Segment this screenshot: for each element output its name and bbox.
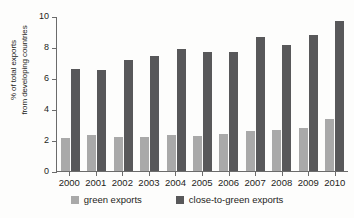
x-axis-label-2001: 2001 <box>83 177 110 189</box>
bar-green-exports-2007 <box>246 131 255 171</box>
bars-layer <box>57 17 348 171</box>
bar-group <box>322 17 348 171</box>
y-axis-title: % of total exports from developing count… <box>9 0 39 150</box>
legend-swatch-icon <box>176 196 184 204</box>
bar-close-to-green-exports-2000 <box>71 69 80 171</box>
x-axis-tick-mark <box>335 172 336 176</box>
x-axis-label-2003: 2003 <box>136 177 163 189</box>
bar-group <box>83 17 109 171</box>
x-axis-tick-mark <box>282 172 283 176</box>
bar-group <box>242 17 268 171</box>
x-axis-tick-mark <box>229 172 230 176</box>
bar-chart: % of total exports from developing count… <box>0 0 354 218</box>
y-axis-tick-label: 6 <box>44 73 49 84</box>
bar-group <box>269 17 295 171</box>
legend-label: close-to-green exports <box>189 194 284 205</box>
bar-close-to-green-exports-2005 <box>203 52 212 171</box>
legend-item-close-to-green-exports[interactable]: close-to-green exports <box>176 194 284 205</box>
bar-green-exports-2006 <box>219 134 228 171</box>
bar-group <box>163 17 189 171</box>
y-axis-tick-label: 10 <box>39 11 49 22</box>
bar-close-to-green-exports-2001 <box>97 70 106 171</box>
x-axis-tick-mark <box>255 172 256 176</box>
y-axis-tick-label: 4 <box>44 104 49 115</box>
x-axis-tick-mark <box>202 172 203 176</box>
bar-green-exports-2003 <box>140 137 149 171</box>
bar-close-to-green-exports-2008 <box>282 45 291 171</box>
bar-group <box>189 17 215 171</box>
x-axis-tick-mark <box>308 172 309 176</box>
bar-close-to-green-exports-2007 <box>256 37 265 171</box>
y-axis-tick-label: 0 <box>44 166 49 177</box>
bar-close-to-green-exports-2006 <box>229 52 238 171</box>
x-axis-tick-mark <box>96 172 97 176</box>
y-axis-tick-label: 2 <box>44 135 49 146</box>
bar-group <box>295 17 321 171</box>
legend-label: green exports <box>84 194 142 205</box>
x-axis-label-2000: 2000 <box>56 177 83 189</box>
x-axis-label-2009: 2009 <box>295 177 322 189</box>
bar-green-exports-2008 <box>272 130 281 171</box>
plot-area: 0246810 <box>56 17 348 172</box>
bar-group <box>216 17 242 171</box>
bar-group <box>57 17 83 171</box>
x-axis-tick-mark <box>122 172 123 176</box>
bar-close-to-green-exports-2003 <box>150 56 159 171</box>
bar-close-to-green-exports-2004 <box>177 49 186 171</box>
x-axis-label-2004: 2004 <box>162 177 189 189</box>
x-axis-tick-mark <box>69 172 70 176</box>
y-axis-tick-label: 8 <box>44 42 49 53</box>
x-axis-label-2006: 2006 <box>215 177 242 189</box>
bar-group <box>110 17 136 171</box>
x-axis-labels: 2000200120022003200420052006200720082009… <box>56 177 348 189</box>
bar-green-exports-2010 <box>325 119 334 171</box>
bar-green-exports-2001 <box>87 135 96 171</box>
x-axis-tick-mark <box>175 172 176 176</box>
bar-green-exports-2004 <box>167 135 176 171</box>
bar-close-to-green-exports-2010 <box>335 21 344 171</box>
x-axis-label-2008: 2008 <box>268 177 295 189</box>
bar-green-exports-2009 <box>299 128 308 171</box>
x-axis-label-2007: 2007 <box>242 177 269 189</box>
bar-close-to-green-exports-2009 <box>309 35 318 171</box>
x-axis-label-2005: 2005 <box>189 177 216 189</box>
bar-green-exports-2002 <box>114 137 123 171</box>
bar-green-exports-2005 <box>193 136 202 171</box>
bar-group <box>136 17 162 171</box>
legend-item-green-exports[interactable]: green exports <box>71 194 142 205</box>
bar-close-to-green-exports-2002 <box>124 60 133 171</box>
bar-green-exports-2000 <box>61 138 70 171</box>
x-axis-label-2010: 2010 <box>321 177 348 189</box>
x-axis-label-2002: 2002 <box>109 177 136 189</box>
legend-swatch-icon <box>71 196 79 204</box>
chart-legend: green exportsclose-to-green exports <box>0 194 354 205</box>
x-axis-tick-mark <box>149 172 150 176</box>
